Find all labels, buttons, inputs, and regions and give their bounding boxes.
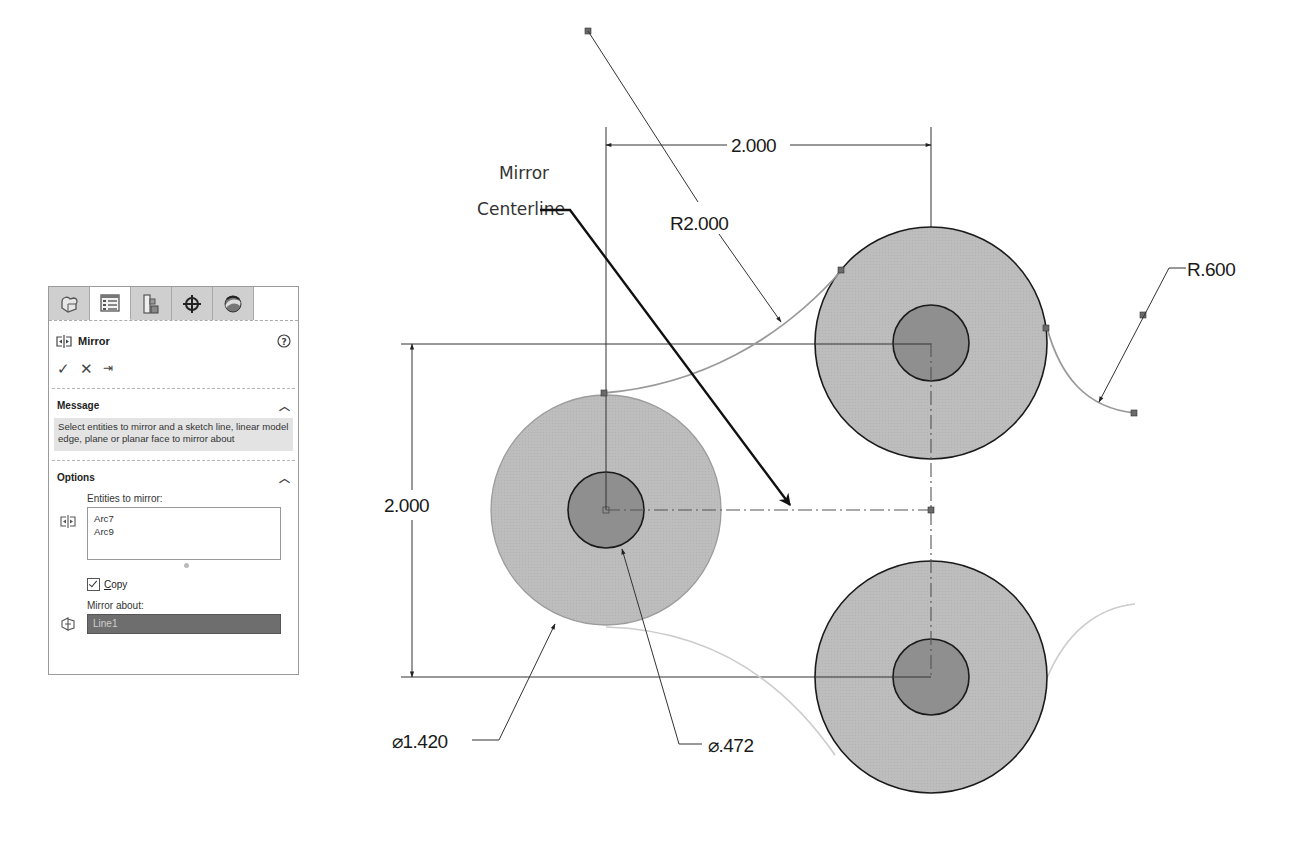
mirror-property-manager: Mirror ? ✓ ✕ ⇥ Message ︿ Select entities… (48, 286, 299, 675)
list-item[interactable]: Arc7 (94, 512, 274, 525)
part-icon (58, 294, 80, 314)
dimension-horizontal-value: 2.000 (731, 135, 776, 156)
crosshair-icon (182, 294, 202, 314)
dimension-radius-large-value: R2.000 (670, 213, 728, 234)
dimension-radius-large[interactable]: R2.000 (588, 31, 781, 322)
tab-feature-manager[interactable] (49, 287, 90, 320)
dimension-radius-small-value: R.600 (1187, 259, 1235, 280)
feature-title: Mirror (78, 335, 277, 347)
list-resize-handle[interactable] (184, 563, 189, 568)
mirror-plane-icon (60, 616, 76, 632)
entities-to-mirror-list[interactable]: Arc7 Arc9 (87, 507, 281, 560)
message-section-header[interactable]: Message ︿ (49, 389, 298, 413)
pin-button[interactable]: ⇥ (103, 362, 113, 374)
arc9 (1047, 328, 1135, 413)
property-list-icon (100, 294, 120, 312)
entities-mirror-icon (60, 515, 76, 528)
dimension-horizontal[interactable]: 2.000 (606, 135, 931, 156)
dimension-inner-diameter-value: ⌀.472 (708, 735, 753, 756)
cancel-button[interactable]: ✕ (80, 361, 93, 376)
tab-display-manager[interactable] (213, 287, 254, 320)
copy-checkbox[interactable] (87, 578, 100, 591)
configuration-icon (142, 294, 160, 314)
dimension-outer-diameter-value: ⌀1.420 (392, 731, 448, 752)
appearance-sphere-icon (223, 294, 243, 314)
action-buttons: ✓ ✕ ⇥ (49, 352, 298, 378)
message-heading: Message (57, 400, 99, 411)
list-item[interactable]: Arc9 (94, 525, 274, 538)
collapse-caret-icon[interactable]: ︿ (279, 469, 290, 485)
ok-button[interactable]: ✓ (57, 361, 70, 376)
mirror-icon (56, 335, 72, 348)
mirror-about-label: Mirror about: (49, 600, 298, 611)
svg-text:?: ? (281, 337, 286, 347)
dimension-radius-small[interactable]: R.600 (1099, 259, 1235, 402)
dimension-outer-diameter[interactable]: ⌀1.420 (392, 624, 555, 752)
dimension-vertical-value: 2.000 (384, 495, 429, 516)
mirror-about-field[interactable]: Line1 (87, 614, 281, 634)
copy-option[interactable]: Copy (49, 578, 298, 591)
manager-tabs (49, 287, 298, 321)
options-heading: Options (57, 472, 95, 483)
callout-line1: Mirror (499, 163, 549, 183)
message-text: Select entities to mirror and a sketch l… (54, 418, 293, 451)
tab-property-manager[interactable] (90, 287, 131, 320)
copy-label: Copy (104, 579, 127, 590)
tab-dimxpert-manager[interactable] (172, 287, 213, 320)
collapse-caret-icon[interactable]: ︿ (279, 397, 290, 413)
entities-to-mirror-label: Entities to mirror: (49, 493, 298, 504)
arc7 (604, 270, 842, 393)
tab-configuration-manager[interactable] (131, 287, 172, 320)
dimension-vertical[interactable]: 2.000 (384, 344, 429, 677)
help-icon[interactable]: ? (277, 334, 291, 348)
options-section-header[interactable]: Options ︿ (49, 461, 298, 485)
feature-title-row: Mirror ? (49, 321, 298, 352)
